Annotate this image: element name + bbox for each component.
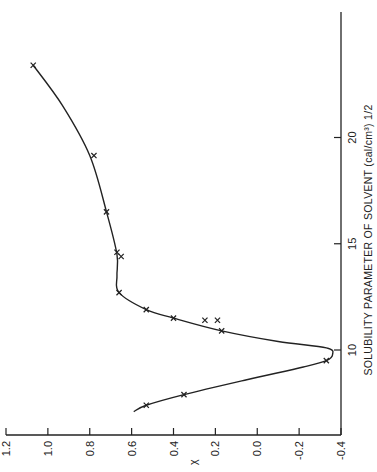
chi-axis-title: χ (187, 459, 199, 465)
chi-tick-label: 1.2 (0, 441, 12, 456)
chi-tick-label: 0.8 (84, 441, 96, 456)
solubility-tick-label: 15 (346, 238, 358, 250)
solubility-tick-label: 10 (346, 344, 358, 356)
chi-tick-label: -0.2 (293, 441, 305, 460)
chi-tick-label: 0.2 (209, 441, 221, 456)
solubility-axis-title: SOLUBILITY PARAMETER OF SOLVENT (cal/cm³… (362, 104, 374, 375)
data-point-x-marker (31, 63, 36, 68)
chi-tick-label: 0.6 (126, 441, 138, 456)
fitted-curve (33, 65, 333, 411)
axes (6, 12, 341, 435)
axis-labels: 1.21.00.80.60.40.20.0-0.2-0.4101520χSOLU… (0, 104, 374, 465)
solubility-tick-label: 20 (346, 131, 358, 143)
data-point-x-marker (91, 153, 96, 158)
fitted-curve-path (33, 65, 333, 411)
chi-tick-label: 1.0 (42, 441, 54, 456)
chi-tick-label: -0.4 (335, 441, 347, 460)
data-point-x-marker (144, 307, 149, 312)
chi-tick-label: 0.0 (251, 441, 263, 456)
data-point-x-marker (116, 290, 121, 295)
data-markers (31, 63, 329, 408)
chart: 1.21.00.80.60.40.20.0-0.2-0.4101520χSOLU… (0, 0, 377, 472)
data-point-x-marker (202, 318, 207, 323)
chi-tick-label: 0.4 (168, 441, 180, 456)
data-point-x-marker (215, 318, 220, 323)
